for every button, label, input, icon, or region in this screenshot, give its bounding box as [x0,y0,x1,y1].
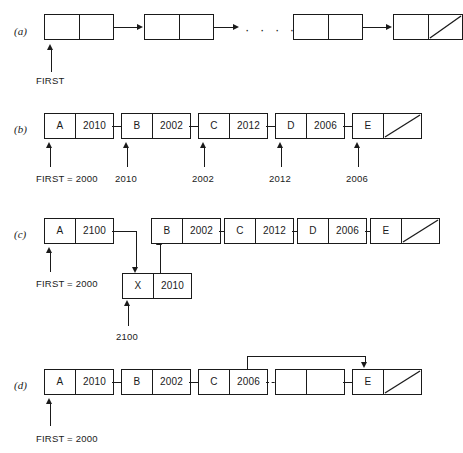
node-a3-data [294,15,328,39]
first-pointer-label-a: FIRST [36,76,64,86]
node-a1-pointer [79,15,113,39]
null-slash-icon [429,15,462,39]
addr-stem-b-4 [358,148,359,167]
node-c-e: E [370,218,440,244]
arrowhead-a2-dots-icon [233,24,239,30]
addr-stem-b-0 [50,148,51,167]
node-a1-data [45,15,79,39]
node-a2-pointer [179,15,213,39]
node-c-a-pointer: 2100 [75,219,113,243]
first-pointer-stem-c [50,253,51,272]
null-slash-icon [384,370,421,394]
node-b-e-data: E [353,114,383,138]
node-a2-data [145,15,179,39]
null-slash-icon [384,114,421,138]
first-pointer-label-d: FIRST = 2000 [36,434,98,444]
node-c-e-data: E [371,219,401,243]
arrowhead-a1-a2-icon [137,24,143,30]
node-a1 [44,14,114,40]
link-a2-dots [213,27,235,28]
node-d-a: A 2010 [44,369,114,395]
node-b-d-pointer: 2006 [306,114,344,138]
address-label-b-3: 2012 [269,174,291,184]
addr-stem-b-2 [204,148,205,167]
panel-d-label: (d) [14,380,27,391]
panel-b: (b) A 2010 B 2002 C 2012 D 2006 E [0,100,450,200]
node-c-d-data: D [298,219,328,243]
link-c-x-to-b-vertical [160,245,161,273]
node-b-a: A 2010 [44,113,114,139]
node-b-a-data: A [45,114,75,138]
link-a1-a2 [113,27,139,28]
link-c-a-to-x-vertical [136,231,137,269]
node-d-c-data: C [199,370,229,394]
bypass-arrowhead-d-icon [361,362,367,368]
node-a4 [393,14,463,40]
node-b-e-null-pointer-icon [383,114,421,138]
first-pointer-arrowhead-c-icon [46,247,52,253]
node-d-e-null-pointer-icon [383,370,421,394]
address-label-b-1: 2010 [115,174,137,184]
addr-arrowhead-b-4-icon [354,142,360,148]
node-b-c-pointer: 2012 [229,114,267,138]
link-a3-a4 [362,27,388,28]
first-pointer-stem-a [51,50,52,72]
node-c-b-data: B [152,219,182,243]
node-c-c-pointer: 2012 [255,219,293,243]
node-b-a-pointer: 2010 [75,114,113,138]
node-c-x-pointer: 2010 [153,274,191,298]
arrowhead-a3-a4-icon [386,24,392,30]
address-label-b-4: 2006 [346,174,368,184]
node-d-c: C 2006 [198,369,268,395]
ellipsis-dots: · · · · [245,23,298,36]
node-b-b-data: B [122,114,152,138]
panel-a-label: (a) [14,26,27,37]
addr-arrowhead-b-0-icon [46,142,52,148]
link-c-a-to-x-horizontal [112,231,137,232]
bypass-span-d [247,356,366,357]
node-d-a-pointer: 2010 [75,370,113,394]
node-c-d-pointer: 2006 [328,219,366,243]
new-node-addr-arrowhead-c-icon [124,300,130,306]
node-b-c-data: C [199,114,229,138]
first-pointer-arrowhead-d-icon [46,398,52,404]
node-b-d: D 2006 [275,113,345,139]
node-d-b-data: B [122,370,152,394]
node-d-b-pointer: 2002 [152,370,190,394]
new-node-addr-stem-c [128,306,129,326]
node-c-x-data: X [123,274,153,298]
first-pointer-arrowhead-a-icon [47,44,53,50]
first-pointer-label-c: FIRST = 2000 [36,279,98,289]
addr-arrowhead-b-1-icon [123,142,129,148]
node-c-b: B 2002 [151,218,221,244]
node-c-c-data: C [225,219,255,243]
node-d-deleted [275,369,345,395]
panel-a: (a) · · · · [0,0,450,100]
address-label-b-0: FIRST = 2000 [36,174,98,184]
null-slash-icon [402,219,439,243]
node-a4-data [394,15,428,39]
panel-d: (d) A 2010 B 2002 C 2006 [0,348,450,453]
addr-arrowhead-b-2-icon [200,142,206,148]
node-a4-null-pointer-icon [428,15,462,39]
node-b-d-data: D [276,114,306,138]
addr-stem-b-1 [127,148,128,167]
new-node-address-label-c: 2100 [116,332,138,342]
node-c-d: D 2006 [297,218,367,244]
addr-arrowhead-b-3-icon [277,142,283,148]
node-d-e-data: E [353,370,383,394]
node-c-c: C 2012 [224,218,294,244]
panel-b-label: (b) [14,124,27,135]
node-b-b: B 2002 [121,113,191,139]
node-d-c-pointer: 2006 [229,370,267,394]
node-d-e: E [352,369,422,395]
panel-c: (c) A 2100 X 2010 B 2002 C 2012 [0,205,450,340]
node-c-a-data: A [45,219,75,243]
node-d-a-data: A [45,370,75,394]
node-a3-pointer [328,15,362,39]
node-b-b-pointer: 2002 [152,114,190,138]
address-label-b-2: 2002 [192,174,214,184]
first-pointer-stem-d [50,404,51,426]
node-c-x-inserted: X 2010 [122,273,192,299]
